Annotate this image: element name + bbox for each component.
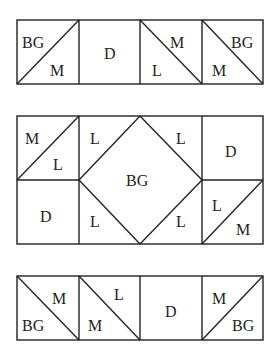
label-top-2: D: [104, 45, 116, 62]
label-bot-2-lower: M: [88, 317, 102, 334]
label-top-4-upper: BG: [231, 34, 254, 51]
label-mid-tl-lower: L: [53, 156, 63, 173]
label-bot-4-upper: M: [212, 290, 226, 307]
label-top-3-lower: L: [152, 62, 162, 79]
label-corner-bl: L: [90, 213, 100, 230]
label-bot-3: D: [165, 303, 177, 320]
label-mid-center: BG: [126, 172, 149, 189]
label-corner-tr: L: [176, 130, 186, 147]
label-bot-2-upper: L: [114, 286, 124, 303]
label-mid-br-upper: L: [212, 197, 222, 214]
top-row: BG M D M L BG M: [17, 20, 263, 84]
diagonal: [17, 116, 79, 180]
label-top-1-lower: M: [50, 62, 64, 79]
label-top-1-upper: BG: [22, 34, 45, 51]
label-corner-br: L: [176, 213, 186, 230]
quilt-diagram: BG M D M L BG M M L D BG L L L L D L: [0, 0, 279, 358]
label-top-4-lower: M: [212, 62, 226, 79]
label-bot-1-upper: M: [52, 290, 66, 307]
diagonal: [140, 20, 202, 84]
label-mid-tr: D: [225, 143, 237, 160]
label-bot-4-lower: BG: [232, 317, 255, 334]
bottom-row: M BG L M D M BG: [17, 276, 263, 340]
label-mid-tl-upper: M: [25, 130, 39, 147]
label-top-3-upper: M: [170, 34, 184, 51]
label-bot-1-lower: BG: [22, 317, 45, 334]
label-mid-br-lower: M: [236, 221, 250, 238]
label-corner-tl: L: [90, 130, 100, 147]
label-mid-bl: D: [40, 208, 52, 225]
middle-block: M L D BG L L L L D L M: [17, 116, 263, 244]
diagonal: [17, 20, 79, 84]
